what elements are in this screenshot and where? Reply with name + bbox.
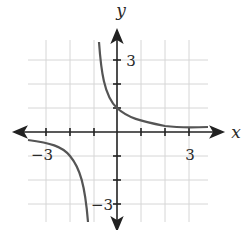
- y-axis-label: y: [115, 0, 126, 20]
- x-axis: [14, 127, 223, 137]
- y-axis: [112, 30, 122, 230]
- graph: x y −3 3 3 −3: [0, 0, 245, 230]
- grid: [28, 40, 208, 222]
- x-tick-label-3: 3: [185, 146, 195, 164]
- x-tick-label-neg3: −3: [31, 146, 53, 164]
- y-tick-label-3: 3: [126, 52, 136, 70]
- x-axis-label: x: [231, 122, 241, 142]
- y-tick-label-neg3: −3: [91, 196, 113, 214]
